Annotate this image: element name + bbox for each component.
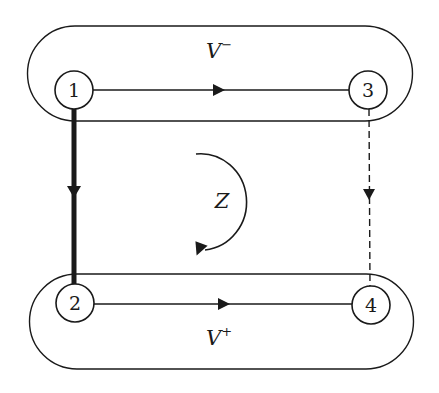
arrowhead-icon bbox=[363, 189, 375, 200]
edge-3-4 bbox=[363, 109, 375, 286]
group-v-plus-label: V+ bbox=[206, 324, 232, 350]
node-3: 3 bbox=[349, 71, 387, 109]
center-label-z: Z bbox=[214, 189, 230, 213]
arrowhead-icon bbox=[218, 298, 230, 310]
arrowhead-icon bbox=[67, 186, 81, 198]
svg-text:2: 2 bbox=[69, 292, 81, 314]
svg-text:3: 3 bbox=[362, 79, 374, 101]
svg-text:4: 4 bbox=[365, 294, 377, 316]
node-2: 2 bbox=[56, 284, 94, 322]
diagram-canvas: V− V+ 1 3 2 4 Z bbox=[0, 0, 439, 393]
node-4: 4 bbox=[352, 286, 390, 324]
svg-text:1: 1 bbox=[68, 79, 80, 101]
edge-2-4 bbox=[94, 298, 352, 310]
edge-1-2 bbox=[67, 109, 81, 284]
node-1: 1 bbox=[55, 71, 93, 109]
arrowhead-icon bbox=[213, 84, 225, 96]
group-v-minus-label: V− bbox=[206, 37, 232, 63]
edge-1-3 bbox=[93, 84, 349, 96]
